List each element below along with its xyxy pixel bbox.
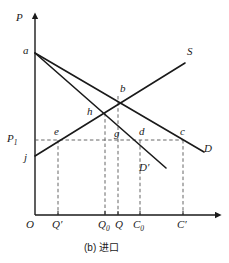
x-tick-label-c0-sub: 0 xyxy=(140,224,144,233)
y-axis-label: P xyxy=(16,12,23,23)
price-level-p1-sub: 1 xyxy=(14,138,18,147)
x-tick-label-qprime: Q′ xyxy=(52,219,62,230)
curve-label-d: D xyxy=(204,143,212,154)
curve-label-d-prime: D′ xyxy=(139,162,149,173)
point-label-d: d xyxy=(139,126,145,137)
demand-curve-d-prime xyxy=(35,53,166,168)
point-label-a: a xyxy=(23,45,29,56)
point-label-j: j xyxy=(24,152,27,163)
supply-curve-s xyxy=(35,63,185,156)
origin-label: O xyxy=(26,219,34,230)
point-label-e: e xyxy=(54,126,59,137)
price-level-p1-text: P xyxy=(7,132,14,144)
point-label-g: g xyxy=(114,128,120,139)
economics-diagram-figure: P O P1 S D D′ a j b h e g d c Q′ Q0 Q C0… xyxy=(0,0,229,263)
point-label-h: h xyxy=(87,106,93,117)
x-tick-label-q0-sub: 0 xyxy=(106,224,110,233)
point-label-c: c xyxy=(180,126,185,137)
dropped-verticals-group xyxy=(58,96,183,215)
point-label-b: b xyxy=(120,83,126,94)
x-tick-label-q: Q xyxy=(115,219,123,230)
x-tick-label-c0: C0 xyxy=(133,219,144,233)
x-tick-label-q0: Q0 xyxy=(98,219,110,233)
x-tick-label-q0-text: Q xyxy=(98,218,106,230)
x-tick-label-cprime: C′ xyxy=(177,219,187,230)
curve-label-s: S xyxy=(187,46,193,57)
price-level-p1: P1 xyxy=(7,133,17,147)
figure-caption: (b) 进口 xyxy=(84,243,119,253)
